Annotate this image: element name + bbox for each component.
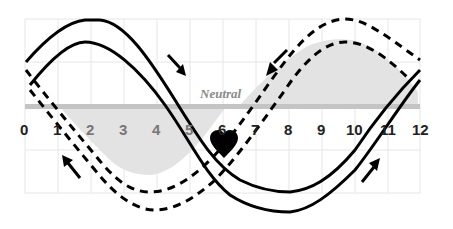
sine-cycle-diagram: Neutral 0 1 2 3 4 5 6 7 8 9 10 — [0, 0, 453, 229]
arrow-icon-down-right — [168, 55, 186, 76]
neutral-band — [25, 104, 420, 109]
tick-7: 7 — [251, 121, 259, 138]
tick-12: 12 — [412, 121, 429, 138]
tick-4: 4 — [152, 121, 161, 138]
arrow-icon-up-right — [362, 158, 380, 182]
tick-0: 0 — [20, 121, 28, 138]
tick-9: 9 — [317, 121, 325, 138]
tick-10: 10 — [346, 121, 363, 138]
neutral-label: Neutral — [199, 86, 242, 101]
arrow-icon-up-left — [62, 155, 80, 178]
tick-11: 11 — [380, 121, 396, 138]
tick-6: 6 — [218, 121, 226, 138]
tick-1: 1 — [53, 121, 61, 138]
tick-5: 5 — [185, 121, 193, 138]
tick-2: 2 — [86, 121, 94, 138]
tick-3: 3 — [119, 121, 127, 138]
tick-8: 8 — [284, 121, 292, 138]
shaded-area-right — [240, 39, 418, 105]
